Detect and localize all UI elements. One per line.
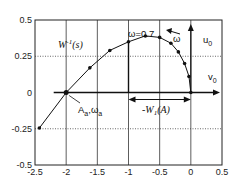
intersection-leader-line	[69, 96, 80, 104]
v0-arrowhead-icon	[213, 90, 220, 96]
data-point	[177, 50, 181, 54]
data-point	[158, 36, 162, 40]
omega-direction-arrowhead-icon	[166, 28, 172, 34]
data-point	[88, 66, 92, 70]
y-tick-label: -0.25	[11, 124, 32, 134]
data-point	[187, 75, 191, 79]
data-point	[64, 90, 69, 95]
omega-direction-label: ω	[173, 33, 181, 44]
x-tick-label: -0.5	[152, 167, 168, 177]
v0-axis-label: v0	[208, 71, 217, 84]
data-point	[189, 91, 193, 95]
x-tick-label: 0	[188, 167, 193, 177]
x-tick-label: -2	[62, 167, 70, 177]
data-point	[108, 49, 112, 53]
data-point	[183, 62, 187, 66]
u0-axis-label: u0	[203, 34, 212, 47]
y-tick-label: -0.5	[16, 160, 32, 170]
dimension-arrow-right-icon	[184, 97, 191, 103]
nyquist-chart: -2.5-2-1.5-1-0.500.50.50.250-0.25-0.5 W-…	[0, 0, 232, 192]
x-tick-label: -1	[124, 167, 132, 177]
omega-value-label: ω=0.7	[128, 28, 154, 39]
data-point	[38, 126, 42, 130]
u0-arrowhead-icon	[188, 24, 194, 31]
intersection-label: Aa,ωa	[78, 104, 102, 117]
tick-labels: -2.5-2-1.5-1-0.500.50.50.250-0.25-0.5	[11, 15, 228, 177]
y-tick-label: 0	[27, 88, 32, 98]
x-tick-label: -1.5	[90, 167, 106, 177]
x-tick-label: 0.5	[216, 167, 229, 177]
y-tick-label: 0.25	[14, 51, 32, 61]
dimension-arrow-left-icon	[129, 97, 136, 103]
data-point	[127, 40, 131, 44]
annotations: W-1(s) ω=0.7 ω u0 v0 Aa,ωa -W1(A)	[58, 28, 217, 117]
curve-label: W-1(s)	[58, 38, 83, 51]
describing-function-label: -W1(A)	[142, 104, 171, 117]
y-tick-label: 0.5	[19, 15, 32, 25]
